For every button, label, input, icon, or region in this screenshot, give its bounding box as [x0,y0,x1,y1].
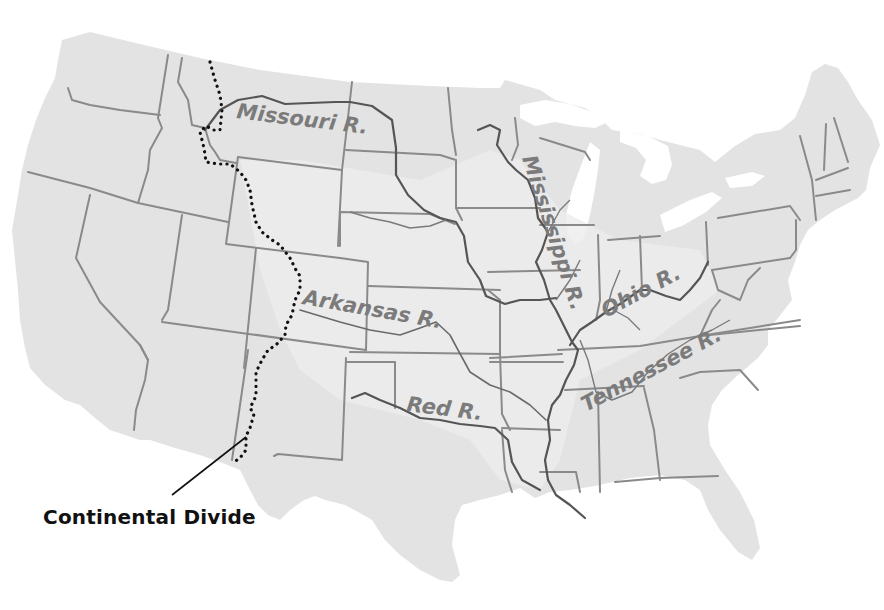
continental-divide-caption: Continental Divide [43,505,256,529]
